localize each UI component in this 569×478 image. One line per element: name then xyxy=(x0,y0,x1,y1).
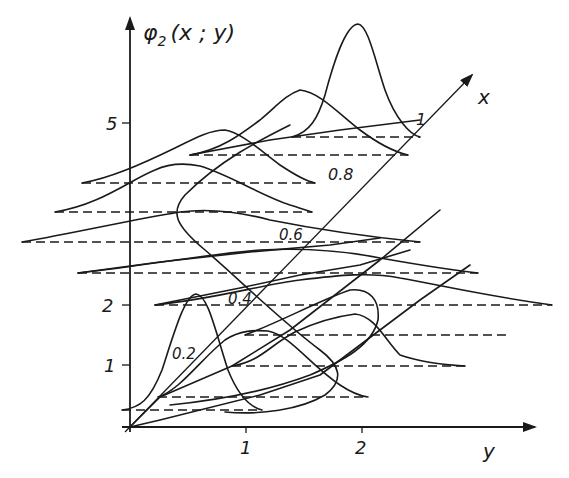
y-tick-label-1: 1 xyxy=(240,437,251,458)
x-tick-label-1: 1 xyxy=(416,110,426,129)
x-tick-label-0.2: 0.2 xyxy=(172,345,196,363)
density-surface-diagram: φ2(x ; y) x y 1 2 5 1 2 0.2 0.4 0.6 0.8 … xyxy=(0,0,569,478)
x-axis-label: x xyxy=(477,85,490,109)
x-tick-label-0.8: 0.8 xyxy=(328,165,353,184)
phi-tick-label-2: 2 xyxy=(102,295,113,316)
y-axis-label: y xyxy=(482,439,496,463)
density-curves xyxy=(22,24,552,413)
phi-tick-label-5: 5 xyxy=(106,113,117,134)
phi-axis-label: φ2(x ; y) xyxy=(143,20,235,49)
phi-tick-label-1: 1 xyxy=(104,355,115,376)
y-tick-label-2: 2 xyxy=(355,437,366,458)
